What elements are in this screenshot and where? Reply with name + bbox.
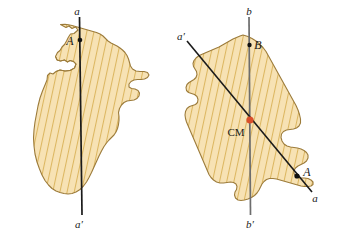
figure-canvas: a a′ A b b′ a′ a B A CM (0, 0, 342, 241)
label-point-a-right: A (302, 165, 311, 179)
label-axis-b-bottom: b′ (246, 218, 255, 230)
center-of-mass-marker (246, 116, 253, 123)
label-axis-a-diagonal-top: a′ (177, 30, 186, 42)
physics-figure-center-of-mass: a a′ A b b′ a′ a B A CM (0, 0, 342, 241)
label-point-b: B (254, 38, 262, 52)
label-point-a-left: A (65, 34, 74, 48)
label-axis-a-bottom: a′ (75, 218, 84, 230)
label-axis-a-top: a (74, 5, 80, 17)
point-a-marker-right (294, 173, 299, 178)
label-center-of-mass: CM (227, 126, 244, 138)
point-a-marker (78, 38, 83, 43)
label-axis-b-top: b (246, 5, 252, 17)
label-axis-a-diagonal-bottom: a (312, 192, 318, 204)
point-b-marker (247, 43, 251, 47)
